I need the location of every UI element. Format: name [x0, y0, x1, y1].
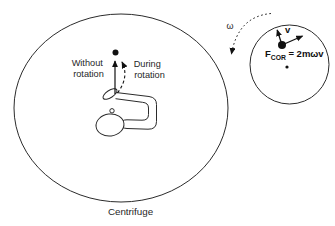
omega-label: ω [226, 21, 233, 31]
ball-dot [113, 50, 119, 56]
coriolis-force-arrow [282, 36, 303, 45]
during-rotation-arrow [118, 62, 125, 93]
diagram-canvas: Without rotation During rotation Centrif… [0, 0, 335, 226]
without-rotation-label: Without rotation [72, 58, 106, 79]
coriolis-equation: FCOR= 2mωv [265, 48, 324, 61]
rotating-disc-circle [250, 25, 329, 104]
person-figure [95, 87, 157, 138]
head-shape [95, 112, 125, 137]
disc-center-dot [285, 65, 288, 68]
centrifuge-label: Centrifuge [108, 206, 154, 217]
centrifuge-ellipse [14, 14, 228, 202]
nose-shape [110, 109, 114, 113]
coriolis-inset: ω v FCOR= 2mωv [226, 14, 329, 105]
centrifuge-coriolis-diagram: Without rotation During rotation Centrif… [0, 0, 335, 226]
velocity-label: v [285, 24, 291, 35]
during-rotation-label: During rotation [134, 59, 165, 80]
